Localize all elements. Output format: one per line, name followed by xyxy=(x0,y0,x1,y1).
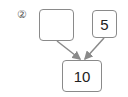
right-value: 5 xyxy=(100,16,108,33)
left-arrow xyxy=(57,41,80,59)
total-box: 10 xyxy=(62,60,102,92)
part-box: 5 xyxy=(92,10,117,38)
empty-answer-box[interactable] xyxy=(39,9,74,41)
total-value: 10 xyxy=(74,68,91,85)
right-arrow xyxy=(85,38,104,59)
